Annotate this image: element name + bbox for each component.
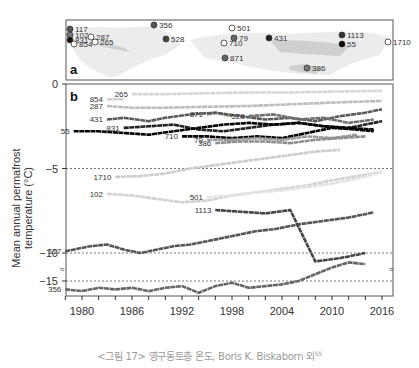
x-tick-label: 1980 bbox=[70, 305, 94, 317]
series-label: 871 bbox=[190, 110, 204, 119]
series-label: 102 bbox=[90, 190, 104, 199]
x-tick-label: 1998 bbox=[220, 305, 244, 317]
map-site-marker bbox=[339, 41, 345, 47]
x-tick-label: 2016 bbox=[370, 305, 394, 317]
series-label: 265 bbox=[115, 90, 129, 99]
map-site-label: 55 bbox=[347, 40, 356, 49]
map-site-marker bbox=[221, 40, 227, 46]
map-site-label: 528 bbox=[171, 35, 185, 44]
series-label: 431 bbox=[90, 115, 104, 124]
map-site-marker bbox=[339, 32, 345, 38]
map-site-marker bbox=[229, 25, 235, 31]
y-tick-label: 0 bbox=[52, 78, 58, 90]
axis-break-left-icon: ≈ bbox=[60, 265, 65, 274]
series-label: 287 bbox=[90, 102, 104, 111]
series-label: 356 bbox=[48, 285, 62, 294]
figure-caption: <그림 17> 영구동토층 온도, Boris K. Biskaborn 외55 bbox=[0, 348, 419, 363]
y-axis-label: Mean annual permafrost temperature (°C) bbox=[10, 128, 34, 288]
series-label: 501 bbox=[190, 193, 204, 202]
map-site-marker bbox=[151, 22, 157, 28]
map-site-label: 710 bbox=[229, 39, 243, 48]
x-tick-label: 1986 bbox=[120, 305, 144, 317]
map-site-label: 386 bbox=[312, 64, 326, 73]
map-site-label: 1113 bbox=[347, 31, 364, 40]
panel-a-label: a bbox=[70, 62, 78, 77]
series-label: 117 bbox=[49, 247, 62, 256]
map-site-marker bbox=[71, 41, 77, 47]
panel-a-map: a 11710283185428726535652850179710871431… bbox=[66, 20, 411, 80]
caption-footnote: 55 bbox=[315, 350, 322, 357]
map-site-marker bbox=[385, 39, 391, 45]
map-site-marker bbox=[67, 26, 73, 32]
map-site-label: 854 bbox=[79, 40, 93, 49]
x-tick-label: 1992 bbox=[170, 305, 194, 317]
x-axis: 1980198619921998200420102016 bbox=[65, 296, 394, 317]
series-label: 1113 bbox=[195, 206, 212, 215]
series-label: 55 bbox=[61, 127, 70, 136]
panel-b-label: b bbox=[70, 89, 78, 104]
series-label: 1710 bbox=[94, 173, 112, 182]
series-label: 528 bbox=[231, 112, 245, 121]
map-site-marker bbox=[163, 36, 169, 42]
x-tick-label: 2010 bbox=[320, 305, 344, 317]
map-site-marker bbox=[88, 34, 94, 40]
map-site-marker bbox=[92, 39, 98, 45]
panel-b-plot: b 0−5−10−15 1980198619921998200420102016… bbox=[39, 78, 394, 317]
series-label: 710 bbox=[165, 132, 179, 141]
map-site-label: 871 bbox=[230, 54, 244, 63]
y-tick-label: −5 bbox=[45, 163, 58, 175]
caption-text: <그림 17> 영구동토층 온도, Boris K. Biskaborn 외 bbox=[97, 351, 315, 362]
map-site-label: 265 bbox=[100, 38, 114, 47]
x-tick-label: 2004 bbox=[270, 305, 294, 317]
map-site-label: 356 bbox=[159, 21, 173, 30]
map-site-marker bbox=[266, 35, 272, 41]
map-site-label: 1710 bbox=[393, 38, 411, 47]
map-site-marker bbox=[304, 65, 310, 71]
map-site-marker bbox=[222, 55, 228, 61]
figure: a 11710283185428726535652850179710871431… bbox=[0, 0, 419, 368]
series-label: 831 bbox=[106, 124, 120, 133]
axis-break-right-icon: ≈ bbox=[389, 265, 394, 274]
map-site-label: 431 bbox=[274, 34, 288, 43]
map-site-label: 501 bbox=[237, 24, 251, 33]
series-label: 386 bbox=[198, 139, 212, 148]
